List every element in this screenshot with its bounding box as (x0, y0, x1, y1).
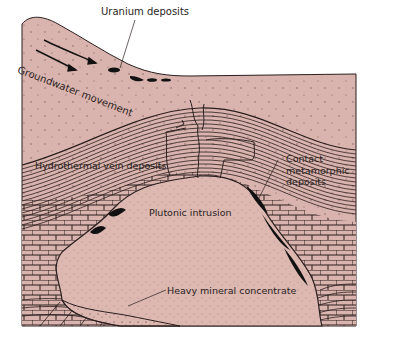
label-heavy-mineral-concentrate: Heavy mineral concentrate (167, 285, 296, 296)
label-contact-line2: metamorphic (286, 165, 350, 177)
label-contact-line3: deposits (286, 176, 350, 188)
label-contact-metamorphic-deposits: Contact metamorphic deposits (286, 153, 350, 188)
label-contact-line1: Contact (286, 153, 350, 165)
label-plutonic-intrusion: Plutonic intrusion (149, 207, 232, 218)
label-hydrothermal-vein-deposits: Hydrothermal vein deposits (35, 160, 167, 171)
label-uranium-deposits: Uranium deposits (101, 6, 189, 17)
